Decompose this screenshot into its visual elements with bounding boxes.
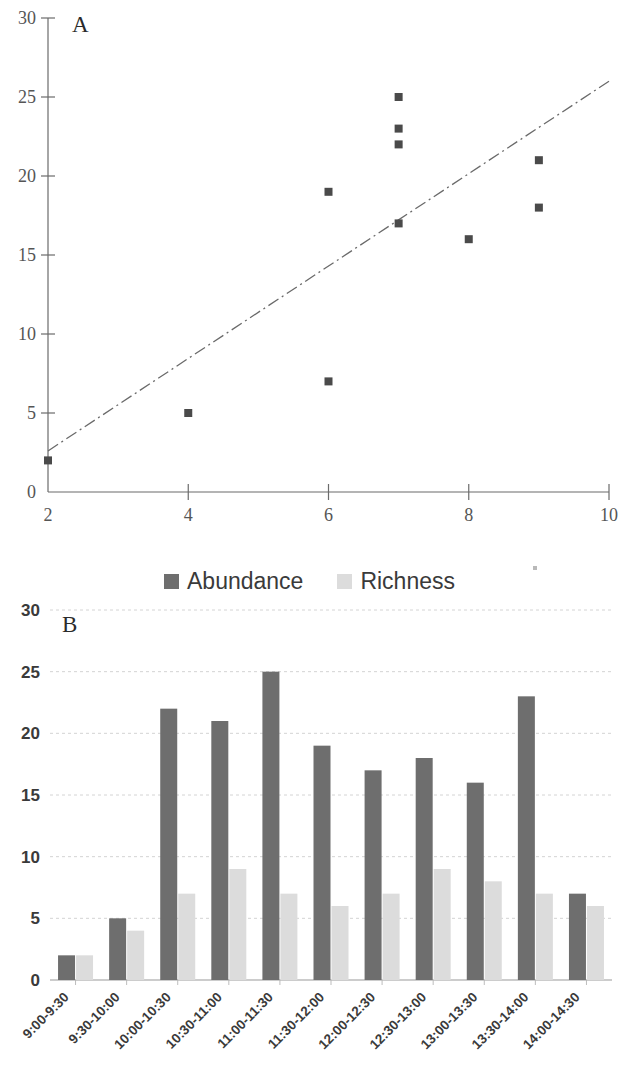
scatter-point (395, 140, 403, 148)
scatter-point (395, 93, 403, 101)
bar-abundance (518, 696, 535, 980)
scatter-ytick-label: 0 (27, 482, 36, 502)
bar-abundance (467, 783, 484, 980)
scatter-point (535, 204, 543, 212)
scatter-point (395, 125, 403, 133)
scatter-ytick-label: 30 (18, 8, 36, 28)
bar-abundance (365, 770, 382, 980)
bar-ytick-label: 10 (21, 848, 40, 867)
chart-legend: Abundance Richness (0, 562, 619, 600)
bar-richness (332, 906, 349, 980)
scatter-point (325, 188, 333, 196)
scatter-xtick-label: 6 (324, 505, 333, 525)
panel-b-bar-chart: B 0510152025309:00-9:309:30-10:0010:00-1… (0, 598, 619, 1079)
bar-richness (383, 894, 400, 980)
bar-richness (280, 894, 297, 980)
scan-artifact-mark (533, 566, 537, 570)
bar-richness (485, 881, 502, 980)
scatter-xtick-label: 2 (44, 505, 53, 525)
legend-item-abundance: Abundance (164, 568, 303, 595)
scatter-point (465, 235, 473, 243)
bar-abundance (58, 955, 75, 980)
bar-richness (178, 894, 195, 980)
scatter-point (535, 156, 543, 164)
scatter-xtick-label: 10 (600, 505, 618, 525)
bar-richness (434, 869, 451, 980)
bar-richness (76, 955, 93, 980)
scatter-ytick-label: 20 (18, 166, 36, 186)
scatter-ytick-label: 10 (18, 324, 36, 344)
bar-ytick-label: 0 (31, 971, 40, 990)
bar-abundance (416, 758, 433, 980)
bar-ytick-label: 15 (21, 786, 40, 805)
scatter-xtick-label: 8 (464, 505, 473, 525)
bar-ytick-label: 25 (21, 663, 40, 682)
scatter-ytick-label: 25 (18, 87, 36, 107)
scatter-point (184, 409, 192, 417)
bar-richness (536, 894, 553, 980)
bar-richness (229, 869, 246, 980)
panel-a-scatter-chart: A 051015202530246810 (0, 0, 619, 540)
bar-ytick-label: 20 (21, 724, 40, 743)
legend-label-richness: Richness (360, 568, 455, 595)
bar-abundance (109, 918, 126, 980)
scatter-xtick-label: 4 (184, 505, 193, 525)
bar-xtick-label: 9:00-9:30 (20, 990, 72, 1042)
bar-abundance (211, 721, 228, 980)
bar-abundance (569, 894, 586, 980)
bar-abundance (262, 672, 279, 980)
legend-label-abundance: Abundance (187, 568, 303, 595)
legend-swatch-abundance (164, 574, 179, 589)
bar-ytick-label: 30 (21, 601, 40, 620)
scatter-ytick-label: 15 (18, 245, 36, 265)
scatter-point (395, 219, 403, 227)
legend-item-richness: Richness (337, 568, 455, 595)
legend-swatch-richness (337, 574, 352, 589)
scatter-ytick-label: 5 (27, 403, 36, 423)
scatter-point (325, 377, 333, 385)
bar-abundance (314, 746, 331, 980)
bar-richness (127, 931, 144, 980)
scatter-point (44, 456, 52, 464)
bar-richness (587, 906, 604, 980)
bar-ytick-label: 5 (31, 909, 40, 928)
scatter-plot-svg: 051015202530246810 (0, 0, 619, 540)
bar-abundance (160, 709, 177, 980)
bar-chart-svg: 0510152025309:00-9:309:30-10:0010:00-10:… (0, 598, 619, 1079)
panel-b-label: B (62, 612, 77, 638)
